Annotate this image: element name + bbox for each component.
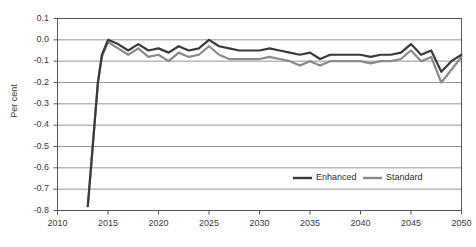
- chart-container: Per cent 0.10.0-0.1-0.2-0.3-0.4-0.5-0.6-…: [0, 0, 476, 247]
- x-tick-label: 2025: [189, 218, 229, 228]
- x-tick-label: 2010: [38, 218, 78, 228]
- y-tick-label: 0.1: [15, 13, 49, 23]
- x-tick-label: 2045: [391, 218, 431, 228]
- y-tick-label: -0.8: [15, 205, 49, 215]
- y-tick-label: -0.1: [15, 55, 49, 65]
- gridlines-group: [58, 40, 462, 189]
- x-tick-label: 2015: [88, 218, 128, 228]
- y-tickmarks-group: [54, 19, 58, 211]
- y-tick-label: -0.6: [15, 162, 49, 172]
- y-tick-label: -0.7: [15, 183, 49, 193]
- chart-plot-area: [0, 0, 476, 247]
- y-tick-label: 0.0: [15, 34, 49, 44]
- x-tick-label: 2030: [240, 218, 280, 228]
- x-tick-label: 2040: [341, 218, 381, 228]
- x-tick-label: 2020: [139, 218, 179, 228]
- y-tick-label: -0.3: [15, 98, 49, 108]
- x-tick-label: 2035: [290, 218, 330, 228]
- y-tick-label: -0.5: [15, 141, 49, 151]
- y-tick-label: -0.2: [15, 77, 49, 87]
- y-tick-label: -0.4: [15, 119, 49, 129]
- legend-label-enhanced: Enhanced: [316, 172, 357, 182]
- legend-label-standard: Standard: [386, 172, 423, 182]
- x-tick-label: 2050: [442, 218, 476, 228]
- x-tickmarks-group: [58, 211, 462, 215]
